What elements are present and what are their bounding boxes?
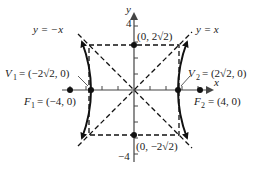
- y-tick-bottom-label: −4: [118, 150, 130, 162]
- y-axis-label: y: [125, 3, 131, 15]
- svg-text:1: 1: [13, 73, 17, 82]
- asymptote-y-eq-x: [78, 32, 192, 146]
- point-top: [131, 42, 137, 48]
- f1-label: F 1 = (−4, 0): [23, 95, 76, 110]
- point-v1: [88, 87, 94, 93]
- bottom-point-label: (0, −2√2): [136, 140, 178, 153]
- svg-text:= (2√2, 0): = (2√2, 0): [202, 67, 247, 80]
- top-point-label: (0, 2√2): [137, 30, 173, 43]
- point-bottom: [131, 132, 137, 138]
- hyperbola-diagram: y 4 −4 x y = −x y = x (0, 2√2) (0, −2√2)…: [0, 0, 254, 170]
- svg-text:1: 1: [31, 101, 35, 110]
- svg-text:V: V: [188, 67, 196, 79]
- asymptote-x-label: y = x: [195, 23, 219, 35]
- hyperbola-right-branch-lower: [178, 90, 187, 138]
- asymptote-y-eq-neg-x: [78, 34, 192, 148]
- svg-text:= (−4, 0): = (−4, 0): [37, 95, 76, 108]
- svg-text:= (−2√2, 0): = (−2√2, 0): [19, 67, 70, 80]
- point-f2: [197, 87, 203, 93]
- svg-text:2: 2: [201, 101, 205, 110]
- svg-text:F: F: [23, 95, 31, 107]
- svg-text:F: F: [193, 95, 201, 107]
- point-v2: [175, 87, 181, 93]
- v1-label: V 1 = (−2√2, 0): [5, 67, 70, 82]
- v1-leader: [78, 76, 88, 86]
- y-tick-top-label: 4: [126, 17, 132, 29]
- svg-text:= (4, 0): = (4, 0): [208, 95, 241, 108]
- svg-text:2: 2: [196, 73, 200, 82]
- f2-label: F 2 = (4, 0): [193, 95, 241, 110]
- hyperbola-right-branch: [178, 42, 187, 90]
- svg-text:V: V: [5, 67, 13, 79]
- point-f1: [67, 87, 73, 93]
- asymptote-neg-x-label: y = −x: [32, 23, 63, 35]
